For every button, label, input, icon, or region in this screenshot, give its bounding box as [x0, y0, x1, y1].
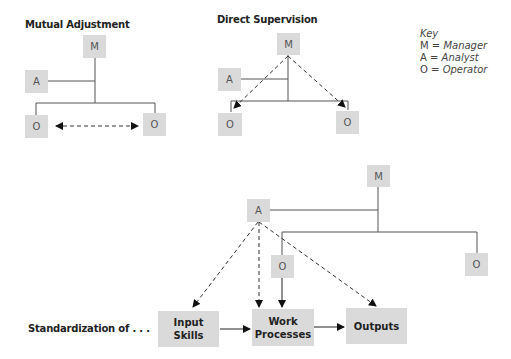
mutual-adjustment-title: Mutual Adjustment — [25, 19, 130, 30]
standardization-label: Standardization of . . . — [28, 323, 150, 334]
direct-manager-node: M — [277, 33, 300, 55]
key-entry-operator: O = Operator — [420, 64, 487, 76]
std-operator-right-node: O — [465, 253, 488, 276]
key-title: Key — [420, 28, 487, 40]
std-operator-left-node: O — [271, 255, 294, 278]
mutual-operator-right-node: O — [143, 113, 166, 136]
direct-operator-left-node: O — [218, 113, 242, 136]
direct-operator-right-node: O — [336, 111, 359, 134]
mutual-manager-node: M — [83, 35, 106, 58]
outputs-box: Outputs — [346, 308, 407, 344]
work-processes-box: WorkProcesses — [252, 309, 314, 346]
key-entry-manager: M = Manager — [420, 40, 487, 52]
key-legend: Key M = Manager A = Analyst O = Operator — [420, 28, 487, 76]
std-manager-node: M — [367, 165, 390, 187]
std-analyst-node: A — [247, 199, 270, 222]
input-skills-box: InputSkills — [158, 311, 219, 347]
direct-analyst-node: A — [218, 68, 241, 91]
mutual-analyst-node: A — [25, 70, 48, 93]
direct-supervision-title: Direct Supervision — [217, 14, 318, 25]
key-entry-analyst: A = Analyst — [420, 52, 487, 64]
mutual-operator-left-node: O — [25, 115, 48, 138]
